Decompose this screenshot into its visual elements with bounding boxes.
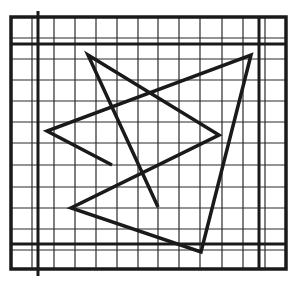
grid-figure: Grid figure with intersecting polyline — [0, 0, 296, 285]
polyline-figure — [47, 55, 251, 252]
grid-lines — [11, 17, 286, 269]
grid-diagram — [0, 0, 296, 285]
